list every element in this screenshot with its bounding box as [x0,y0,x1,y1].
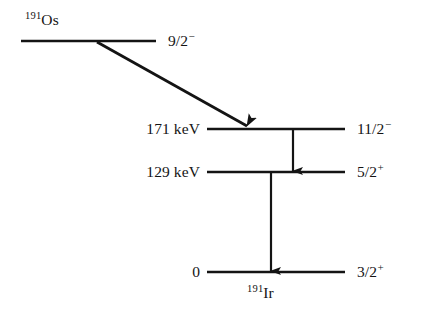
energy-label-ground-state: 0 [140,264,200,280]
parity-sign-ground-state: + [377,261,384,273]
parent-parity-sign: − [188,30,195,42]
parent-mass-number: 191 [25,10,41,21]
level-scheme-diagram: 191Os 9/2− 171 keV 11/2− 129 keV 5/2+ 0 … [0,0,421,318]
spin-parity-label-129kev: 5/2+ [357,164,384,180]
parity-sign-129kev: + [377,161,384,173]
parent-spin-value: 9/2 [168,32,188,49]
decay-arrow-parent-to-171kev [97,42,247,126]
spin-value-171kev: 11/2 [357,120,384,137]
daughter-nuclide-label: 191Ir [247,285,274,301]
spin-value-129kev: 5/2 [357,163,377,180]
spin-parity-label-171kev: 11/2− [357,121,391,137]
spin-value-ground-state: 3/2 [357,263,377,280]
daughter-mass-number: 191 [247,283,263,294]
energy-label-129kev: 129 keV [100,164,200,180]
energy-label-171kev: 171 keV [100,121,200,137]
daughter-element-symbol: Ir [263,284,274,301]
parent-element-symbol: Os [41,11,58,28]
spin-parity-label-ground-state: 3/2+ [357,264,384,280]
parent-nuclide-label: 191Os [25,12,59,28]
parity-sign-171kev: − [384,118,391,130]
parent-spin-parity-label: 9/2− [168,33,195,49]
